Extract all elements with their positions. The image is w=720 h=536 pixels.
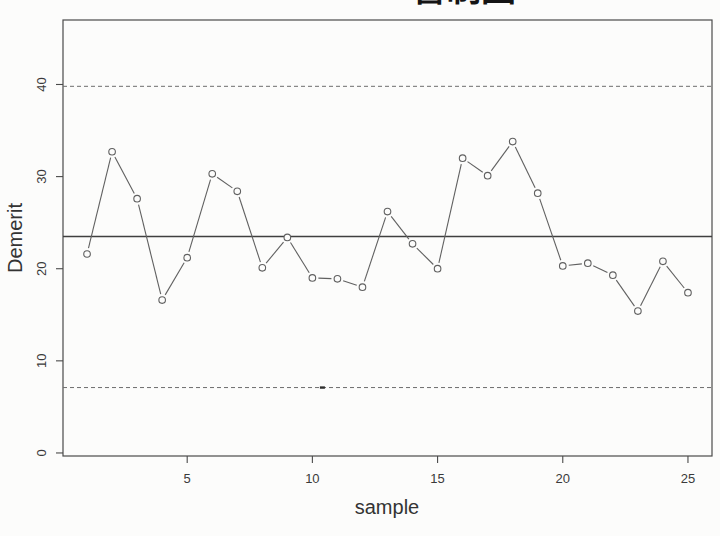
data-line-segment: [491, 146, 509, 170]
y-tick-label: 10: [34, 354, 49, 368]
data-point: [184, 254, 191, 261]
data-point: [484, 172, 491, 179]
data-point: [109, 148, 116, 155]
x-tick-label: 15: [430, 471, 444, 486]
data-point: [284, 234, 291, 241]
y-tick-label: 0: [34, 449, 49, 456]
data-line-segment: [239, 197, 260, 262]
x-axis-label: sample: [355, 496, 419, 518]
data-line-segment: [115, 157, 134, 193]
data-line-segment: [391, 216, 409, 239]
data-line-segment: [540, 199, 561, 260]
data-line-segment: [139, 205, 161, 295]
data-point: [635, 308, 642, 315]
data-point: [309, 275, 316, 282]
data-point: [509, 138, 516, 145]
data-point: [459, 155, 466, 162]
data-line-segment: [439, 164, 461, 263]
data-line-segment: [468, 162, 483, 173]
data-point: [159, 297, 166, 304]
data-point: [559, 263, 566, 270]
data-point: [610, 272, 617, 279]
x-tick-label: 5: [184, 471, 191, 486]
data-point: [585, 260, 592, 267]
y-axis-label: Demerit: [4, 203, 26, 273]
demerit-control-chart: 510152025010203040 管制图 sample Demerit: [0, 0, 720, 536]
data-point: [259, 265, 266, 272]
data-line-segment: [569, 264, 582, 265]
data-line-segment: [417, 248, 434, 264]
data-line-segment: [616, 280, 634, 306]
data-point: [209, 171, 216, 178]
y-tick-label: 20: [34, 261, 49, 275]
x-tick-label: 20: [556, 471, 570, 486]
x-tick-label: 25: [681, 471, 695, 486]
data-line-segment: [217, 177, 232, 188]
data-line-segment: [667, 266, 685, 288]
data-point: [434, 265, 441, 272]
data-point: [534, 190, 541, 197]
data-point: [384, 208, 391, 215]
data-line-segment: [189, 180, 211, 252]
y-tick-label: 40: [34, 77, 49, 91]
plot-page: 510152025010203040 管制图 sample Demerit: [0, 0, 720, 536]
chart-title: 管制图: [411, 0, 516, 8]
data-line-segment: [165, 263, 184, 295]
data-point: [359, 284, 366, 291]
data-point: [234, 188, 241, 195]
x-tick-label: 10: [305, 471, 319, 486]
data-point: [409, 241, 416, 248]
data-point: [334, 276, 341, 283]
data-point: [685, 289, 692, 296]
plot-border: [63, 20, 712, 456]
y-tick-label: 30: [34, 169, 49, 183]
data-line-segment: [641, 267, 661, 306]
data-line-segment: [88, 158, 110, 249]
data-line-segment: [593, 266, 607, 273]
data-point: [660, 258, 667, 265]
data-line-segment: [290, 243, 309, 273]
data-line-segment: [343, 281, 357, 286]
plot-area: 510152025010203040: [34, 20, 712, 486]
data-point: [84, 251, 91, 258]
data-line-segment: [515, 147, 535, 188]
data-point: [134, 195, 141, 202]
data-line-segment: [364, 217, 385, 281]
data-line-segment: [266, 242, 283, 263]
